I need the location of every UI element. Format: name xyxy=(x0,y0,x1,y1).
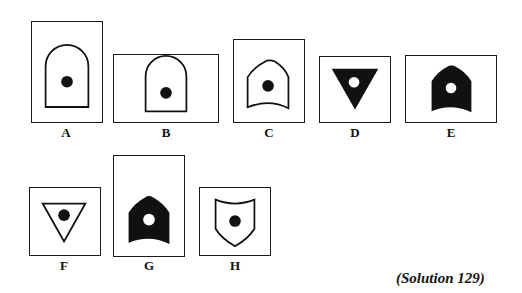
figure-e-box xyxy=(405,55,497,123)
figure-h-box xyxy=(199,187,271,256)
triangle-solid-icon xyxy=(320,57,390,122)
shield-outline-icon xyxy=(200,188,270,255)
figure-g-box xyxy=(113,155,185,257)
pointed-arch-solid-icon xyxy=(406,56,496,122)
triangle-outline-icon xyxy=(30,188,100,255)
figure-d-label: D xyxy=(335,125,375,141)
figure-c-label: C xyxy=(249,125,289,141)
figure-g-label: G xyxy=(129,258,169,274)
arch-outline-icon xyxy=(32,22,102,122)
figure-e-label: E xyxy=(431,125,471,141)
figure-h-label: H xyxy=(215,258,255,274)
arch-outline-icon xyxy=(114,55,218,122)
pointed-arch-outline-icon xyxy=(234,40,304,122)
figure-f-box xyxy=(29,187,101,256)
figure-a-box xyxy=(31,21,103,123)
figure-d-box xyxy=(319,56,391,123)
solution-caption: (Solution 129) xyxy=(396,270,485,287)
figure-f-label: F xyxy=(44,258,84,274)
figure-a-label: A xyxy=(46,125,86,141)
figure-c-box xyxy=(233,39,305,123)
pointed-arch-solid-icon xyxy=(114,156,184,256)
figure-b-box xyxy=(113,54,219,123)
figure-b-label: B xyxy=(146,125,186,141)
